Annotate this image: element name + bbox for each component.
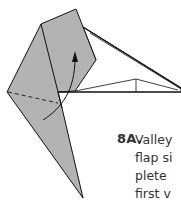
instruction-line-2: flap si	[135, 150, 172, 165]
instruction-line-4: first v	[135, 186, 171, 201]
instruction-line-1: Valley	[135, 132, 172, 147]
instruction-line-3: plete	[135, 168, 167, 183]
gray-paper-shape	[7, 9, 96, 198]
